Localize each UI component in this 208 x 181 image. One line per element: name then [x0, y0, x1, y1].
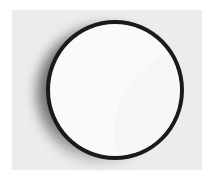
fingerprint-icon	[50, 24, 180, 156]
fingerprint-disc	[46, 20, 184, 160]
